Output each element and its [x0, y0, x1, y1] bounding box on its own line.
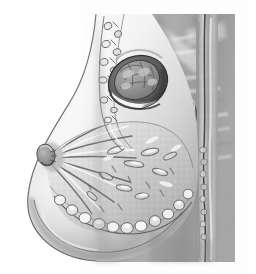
breast-cross-section-illustration [0, 0, 256, 274]
plate-grain [96, 14, 235, 262]
anatomical-figure [0, 0, 256, 274]
